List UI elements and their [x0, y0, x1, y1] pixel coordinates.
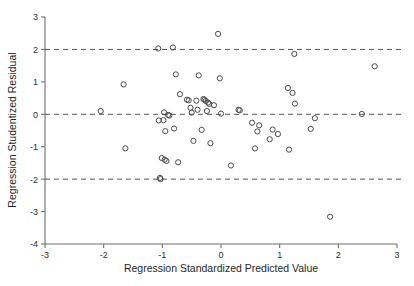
- data-point: [196, 73, 201, 78]
- data-point: [163, 129, 168, 134]
- data-point: [270, 127, 275, 132]
- data-point: [123, 146, 128, 151]
- data-point: [292, 101, 297, 106]
- data-point: [208, 141, 213, 146]
- data-point: [177, 92, 182, 97]
- data-point: [286, 147, 291, 152]
- x-tick-label: 1: [277, 250, 282, 260]
- data-point: [308, 126, 313, 131]
- data-point: [275, 131, 280, 136]
- scatter-plot-figure: -4-3-2-10123 -3-2-10123 Regression Stand…: [0, 0, 414, 286]
- data-point: [204, 108, 209, 113]
- data-point: [218, 111, 223, 116]
- y-tick-label: -2: [30, 175, 38, 185]
- data-point: [257, 123, 262, 128]
- plot-canvas: -4-3-2-10123 -3-2-10123 Regression Stand…: [0, 0, 414, 286]
- x-tick-label: -1: [158, 250, 166, 260]
- y-tick-label: 3: [33, 12, 38, 22]
- data-point: [121, 82, 126, 87]
- data-point: [252, 146, 257, 151]
- data-point: [211, 103, 216, 108]
- data-point: [188, 105, 193, 110]
- x-tick-label: -2: [100, 250, 108, 260]
- x-tick-label: -3: [41, 250, 49, 260]
- data-point: [228, 163, 233, 168]
- y-axis: -4-3-2-10123: [30, 12, 45, 249]
- data-point: [195, 107, 200, 112]
- data-point: [194, 98, 199, 103]
- x-axis-title: Regression Standardized Predicted Value: [124, 262, 318, 274]
- x-tick-label: 0: [218, 250, 223, 260]
- y-tick-label: -1: [30, 142, 38, 152]
- data-point: [255, 129, 260, 134]
- data-point: [191, 138, 196, 143]
- data-point: [217, 76, 222, 81]
- y-tick-label: -4: [30, 239, 38, 249]
- data-point: [372, 64, 377, 69]
- y-tick-label: -3: [30, 207, 38, 217]
- data-point: [171, 126, 176, 131]
- data-point: [98, 108, 103, 113]
- data-point: [328, 214, 333, 219]
- data-point: [173, 72, 178, 77]
- x-axis: -3-2-10123: [41, 244, 400, 260]
- data-point: [215, 31, 220, 36]
- data-point: [267, 137, 272, 142]
- x-tick-label: 2: [336, 250, 341, 260]
- data-point: [176, 160, 181, 165]
- data-point: [285, 85, 290, 90]
- data-point: [290, 90, 295, 95]
- y-tick-label: 1: [33, 77, 38, 87]
- data-point: [312, 116, 317, 121]
- y-tick-label: 2: [33, 45, 38, 55]
- data-point: [292, 51, 297, 56]
- y-axis-title: Regression Studentized Residual: [6, 52, 18, 207]
- x-tick-label: 3: [394, 250, 399, 260]
- data-point: [249, 120, 254, 125]
- data-point: [156, 46, 161, 51]
- data-points: [98, 31, 377, 219]
- data-point: [199, 127, 204, 132]
- y-tick-label: 0: [33, 110, 38, 120]
